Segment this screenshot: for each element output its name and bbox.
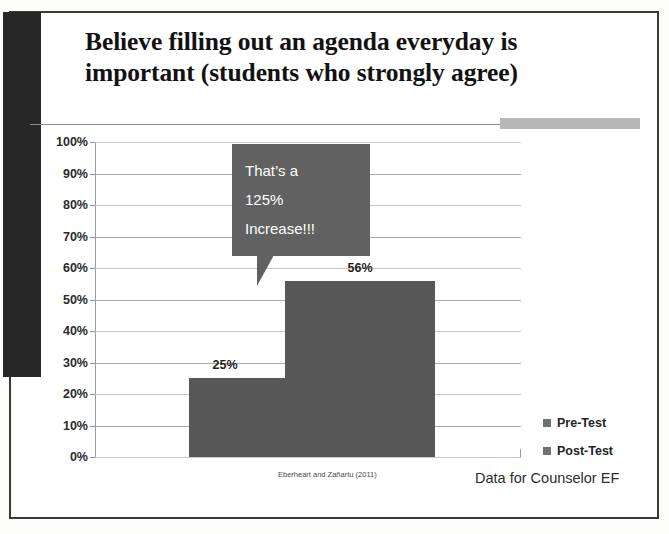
y-axis-tick [90, 237, 95, 238]
y-axis-tick [90, 363, 95, 364]
legend-swatch-icon [543, 447, 551, 455]
y-axis-label: 40% [63, 324, 88, 338]
page-title: Believe filling out an agenda everyday i… [85, 26, 615, 88]
legend-swatch-icon [543, 419, 551, 427]
callout-text: That’s a 125% Increase!!! [245, 156, 363, 243]
legend-item-pre-test[interactable]: Pre-Test [543, 416, 613, 430]
y-axis-label: 10% [63, 419, 88, 433]
bar-post-test [285, 281, 435, 457]
scanned-slide-page: Believe filling out an agenda everyday i… [0, 0, 669, 534]
bar-chart: 0%10%20%30%40%50%60%70%80%90%100%25%56% … [0, 136, 669, 466]
data-source-label: Data for Counselor EF [475, 470, 619, 486]
callout-box: That’s a 125% Increase!!! [232, 144, 370, 256]
gridline [95, 268, 521, 269]
y-axis-tick [90, 457, 95, 458]
chart-legend: Pre-TestPost-Test [543, 416, 613, 472]
y-axis-label: 0% [70, 450, 88, 464]
bar-pre-test [189, 378, 285, 457]
y-axis-label: 30% [63, 356, 88, 370]
bar-value-label: 25% [212, 358, 237, 372]
title-accent-bar [500, 118, 640, 129]
legend-label: Post-Test [557, 444, 613, 458]
y-axis-tick [90, 300, 95, 301]
legend-item-post-test[interactable]: Post-Test [543, 444, 613, 458]
y-axis-label: 80% [63, 198, 88, 212]
bar-value-label: 56% [347, 261, 372, 275]
citation-text: Eberheart and Zañartu (2011) [278, 470, 377, 479]
y-axis-label: 100% [56, 135, 88, 149]
callout-tail [257, 255, 291, 286]
y-axis-tick [90, 394, 95, 395]
y-axis-tick [90, 174, 95, 175]
gridline [95, 457, 521, 458]
y-axis-label: 20% [63, 387, 88, 401]
y-axis-tick [90, 268, 95, 269]
y-axis-label: 60% [63, 261, 88, 275]
y-axis-label: 70% [63, 230, 88, 244]
legend-label: Pre-Test [557, 416, 606, 430]
gridline [95, 142, 521, 143]
slide-title-block: Believe filling out an agenda everyday i… [85, 26, 615, 88]
y-axis-tick [90, 205, 95, 206]
y-axis-tick [90, 331, 95, 332]
y-axis-label: 50% [63, 293, 88, 307]
y-axis-label: 90% [63, 167, 88, 181]
y-axis-tick [90, 142, 95, 143]
y-axis-tick [90, 426, 95, 427]
callout-annotation: That’s a 125% Increase!!! [232, 144, 370, 256]
